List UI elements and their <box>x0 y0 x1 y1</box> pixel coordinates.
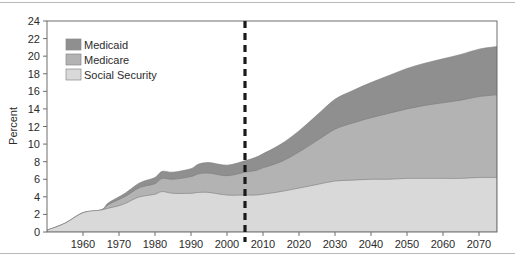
y-tick-label: 2 <box>34 208 40 220</box>
x-tick-label: 2050 <box>395 238 419 250</box>
y-tick-label: 20 <box>28 50 40 62</box>
legend-label-medicare: Medicare <box>84 54 129 66</box>
x-tick-label: 1980 <box>143 238 167 250</box>
x-tick-label: 1970 <box>107 238 131 250</box>
legend-swatch-medicaid <box>66 39 81 50</box>
x-tick-label: 2070 <box>467 238 491 250</box>
legend-swatch-medicare <box>66 54 81 65</box>
y-tick-label: 16 <box>28 85 40 97</box>
x-tick-label: 2040 <box>359 238 383 250</box>
y-axis-title: Percent <box>7 107 19 145</box>
legend-swatch-social-security <box>66 69 81 80</box>
y-tick-label: 8 <box>34 156 40 168</box>
x-tick-label: 2030 <box>323 238 347 250</box>
x-tick-label: 2020 <box>287 238 311 250</box>
y-tick-label: 22 <box>28 33 40 45</box>
y-tick-label: 14 <box>28 103 40 115</box>
y-tick-label: 10 <box>28 138 40 150</box>
x-tick-label: 1990 <box>179 238 203 250</box>
x-tick-label: 1960 <box>71 238 95 250</box>
x-tick-label: 2000 <box>215 238 239 250</box>
stacked-area-chart: 024681012141618202224 196019701980199020… <box>0 0 515 263</box>
y-tick-label: 18 <box>28 68 40 80</box>
y-axis: 024681012141618202224 <box>28 15 47 238</box>
x-tick-label: 2010 <box>251 238 275 250</box>
y-tick-label: 0 <box>34 226 40 238</box>
y-tick-label: 6 <box>34 173 40 185</box>
y-tick-label: 12 <box>28 121 40 133</box>
legend-label-medicaid: Medicaid <box>84 39 128 51</box>
y-tick-label: 24 <box>28 15 40 27</box>
legend-label-social-security: Social Security <box>84 69 157 81</box>
y-tick-label: 4 <box>34 191 40 203</box>
x-tick-label: 2060 <box>431 238 455 250</box>
figure-container: 024681012141618202224 196019701980199020… <box>0 0 515 263</box>
x-axis: 1960197019801990200020102020203020402050… <box>71 232 491 250</box>
